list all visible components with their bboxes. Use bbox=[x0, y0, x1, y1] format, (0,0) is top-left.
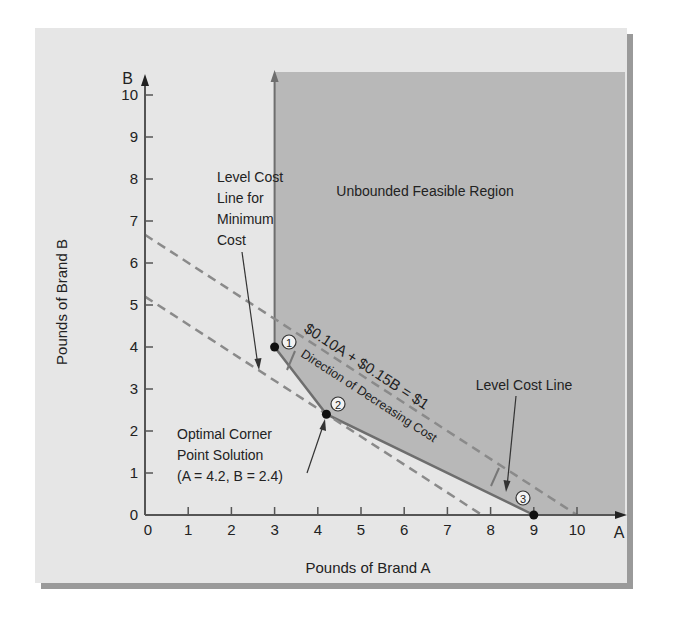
y-tick-label: 0 bbox=[130, 506, 138, 523]
annotation-line: Line for bbox=[217, 190, 264, 206]
annotation-line: Minimum bbox=[217, 211, 274, 227]
y-tick-label: 6 bbox=[130, 254, 138, 271]
corner-point-3 bbox=[529, 511, 538, 520]
x-tick-label: 9 bbox=[530, 521, 538, 538]
y-tick-labels: 0 1 2 3 4 5 6 7 8 9 10 bbox=[121, 86, 138, 523]
x-tick-label: 6 bbox=[400, 521, 408, 538]
y-tick-label: 9 bbox=[130, 128, 138, 145]
x-tick-label: 10 bbox=[569, 521, 586, 538]
y-tick-label: 7 bbox=[130, 212, 138, 229]
y-tick-label: 3 bbox=[130, 380, 138, 397]
y-tick-label: 2 bbox=[130, 422, 138, 439]
annotation-line: Optimal Corner bbox=[177, 426, 272, 442]
y-tick-label: 8 bbox=[130, 170, 138, 187]
corner-point-label: 3 bbox=[520, 493, 526, 505]
x-axis-title: Pounds of Brand A bbox=[305, 559, 430, 576]
x-tick-label: 7 bbox=[443, 521, 451, 538]
x-tick-label: 1 bbox=[184, 521, 192, 538]
annotation-line: Point Solution bbox=[177, 447, 263, 463]
x-axis-letter: A bbox=[614, 524, 625, 541]
annotation-line: Level Cost bbox=[217, 169, 283, 185]
corner-point-label: 1 bbox=[286, 337, 292, 349]
annotation-line: (A = 4.2, B = 2.4) bbox=[177, 468, 283, 484]
optimal-pointer bbox=[307, 426, 323, 473]
min-cost-annotation: Level Cost Line for Minimum Cost bbox=[217, 169, 283, 248]
min-cost-pointer bbox=[242, 252, 258, 366]
corner-point-marker-1: 1 bbox=[282, 335, 296, 349]
x-tick-labels: 0 1 2 3 4 5 6 7 8 9 10 bbox=[144, 521, 586, 538]
y-axis-arrow-icon bbox=[141, 74, 149, 86]
x-tick-label: 2 bbox=[227, 521, 235, 538]
corner-point-label: 2 bbox=[335, 399, 341, 411]
level-cost-label: Level Cost Line bbox=[476, 377, 573, 393]
chart-svg: 0 1 2 3 4 5 6 7 8 9 10 B 0 1 2 3 4 5 6 7… bbox=[35, 28, 627, 583]
x-tick-label: 0 bbox=[144, 521, 152, 538]
pointer-arrowhead-icon bbox=[255, 358, 262, 370]
y-tick-label: 10 bbox=[121, 86, 138, 103]
y-tick-label: 1 bbox=[130, 464, 138, 481]
corner-point-marker-2: 2 bbox=[331, 397, 345, 411]
y-axis-letter: B bbox=[122, 70, 133, 87]
corner-point-1 bbox=[270, 343, 279, 352]
feasible-region bbox=[275, 72, 625, 515]
y-axis-title: Pounds of Brand B bbox=[53, 239, 70, 365]
y-tick-label: 5 bbox=[130, 296, 138, 313]
pointer-arrowhead-icon bbox=[320, 419, 327, 431]
x-tick-label: 3 bbox=[270, 521, 278, 538]
optimal-annotation: Optimal Corner Point Solution (A = 4.2, … bbox=[177, 426, 283, 484]
x-tick-label: 4 bbox=[314, 521, 322, 538]
chart-card: 0 1 2 3 4 5 6 7 8 9 10 B 0 1 2 3 4 5 6 7… bbox=[35, 28, 627, 583]
x-tick-label: 5 bbox=[357, 521, 365, 538]
corner-point-2 bbox=[322, 410, 331, 419]
annotation-line: Cost bbox=[217, 232, 246, 248]
y-tick-label: 4 bbox=[130, 338, 138, 355]
y-ticks bbox=[145, 95, 153, 473]
x-tick-label: 8 bbox=[486, 521, 494, 538]
corner-point-marker-3: 3 bbox=[516, 491, 530, 505]
feasible-region-label: Unbounded Feasible Region bbox=[336, 183, 513, 199]
